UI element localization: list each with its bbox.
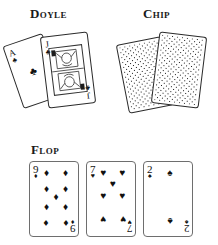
card-index-top-left: A ♣ <box>8 48 19 65</box>
poker-figure: Doyle Chip Flop A ♣ ♣ J ♣ J ♣ <box>0 0 218 245</box>
diamond-icon: ♦ <box>63 202 68 212</box>
card-jack-of-clubs: J ♣ J ♣ <box>40 31 96 108</box>
card-nine-of-diamonds: 9 ♦ 9 ♦ ♦ ♦ ♦ ♦ ♦ ♦ ♦ ♦ ♦ <box>29 161 79 237</box>
diamond-icon: ♦ <box>44 184 49 194</box>
card-index-top-left: 7 ♥ <box>90 164 96 180</box>
doyle-label: Doyle <box>30 7 67 20</box>
pip-field: ♠ ♠ <box>153 167 187 231</box>
heart-icon: ♥ <box>90 173 96 179</box>
heart-icon: ♥ <box>110 179 116 189</box>
heart-icon: ♥ <box>101 214 107 224</box>
diamond-icon: ♦ <box>44 202 49 212</box>
face-down-card-right <box>151 31 207 108</box>
diamond-icon: ♦ <box>63 184 68 194</box>
doyle-hand: A ♣ ♣ J ♣ J ♣ <box>8 28 113 120</box>
spade-icon: ♠ <box>167 168 172 178</box>
diamond-icon: ♦ <box>53 192 58 202</box>
spade-icon: ♠ <box>147 173 153 179</box>
diamond-icon: ♦ <box>63 218 68 228</box>
diamond-icon: ♦ <box>63 168 68 178</box>
pip-field: ♦ ♦ ♦ ♦ ♦ ♦ ♦ ♦ ♦ <box>39 167 73 231</box>
card-index-top-left: 2 ♠ <box>147 164 153 180</box>
chip-label: Chip <box>143 7 170 20</box>
diamond-icon: ♦ <box>44 168 49 178</box>
club-icon: ♣ <box>28 64 39 78</box>
card-two-of-spades: 2 ♠ 2 ♠ ♠ ♠ <box>143 161 193 237</box>
heart-icon: ♥ <box>120 168 126 178</box>
heart-icon: ♥ <box>101 168 107 178</box>
heart-icon: ♥ <box>101 191 107 201</box>
jack-court-illustration <box>48 44 88 96</box>
card-seven-of-hearts: 7 ♥ 7 ♥ ♥ ♥ ♥ ♥ ♥ ♥ ♥ <box>86 161 136 237</box>
spade-icon: ♠ <box>167 216 172 226</box>
pip-field: ♥ ♥ ♥ ♥ ♥ ♥ ♥ <box>96 167 130 231</box>
flop-cards: 9 ♦ 9 ♦ ♦ ♦ ♦ ♦ ♦ ♦ ♦ ♦ ♦ 7 ♥ <box>29 161 195 239</box>
heart-icon: ♥ <box>120 214 126 224</box>
club-icon: ♣ <box>11 56 19 65</box>
heart-icon: ♥ <box>120 191 126 201</box>
card-back-pattern <box>154 35 204 106</box>
chip-hand <box>122 28 214 120</box>
flop-label: Flop <box>31 143 59 156</box>
diamond-icon: ♦ <box>44 218 49 228</box>
diamond-icon: ♦ <box>33 173 39 179</box>
card-index-top-left: 9 ♦ <box>33 164 39 180</box>
